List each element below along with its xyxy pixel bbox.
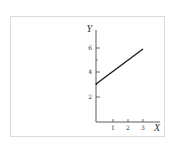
- x-tick-label-2: 2: [126, 124, 130, 131]
- y-axis-label: Y: [86, 23, 93, 34]
- y-tick-label-6: 6: [88, 44, 92, 51]
- y-tick-label-4: 4: [88, 68, 92, 75]
- x-tick-label-3: 3: [141, 124, 145, 131]
- data-line: [96, 49, 143, 84]
- line-start-point: [96, 83, 98, 85]
- line-chart: 1 2 3 2 4 6 Y X: [0, 0, 172, 144]
- x-tick-label-1: 1: [111, 124, 115, 131]
- y-tick-label-2: 2: [88, 93, 92, 100]
- x-axis-label: X: [153, 122, 161, 133]
